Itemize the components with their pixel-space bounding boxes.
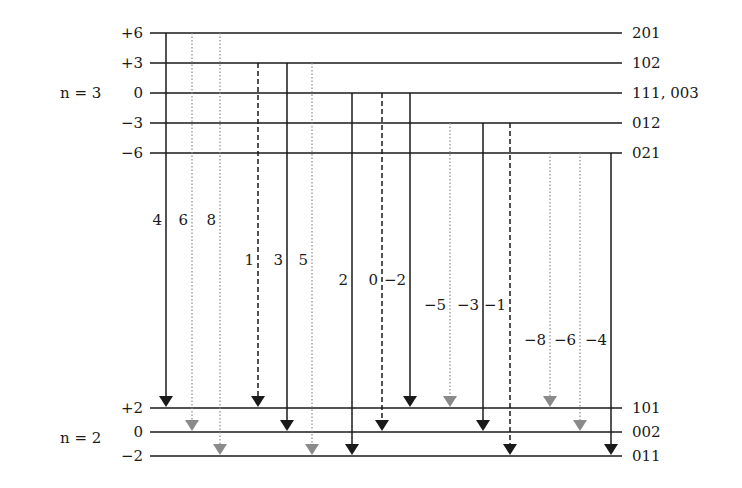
upper-level-states: 111, 003 [632,84,699,102]
transition-arrows [159,33,618,455]
transition-label: 0 [368,271,378,289]
arrowhead-icon [573,420,587,431]
transition-label: 5 [298,251,308,269]
transition-label: −6 [554,331,576,349]
lower-level-value: 0 [133,423,143,441]
transition-label: 4 [152,211,162,229]
transition-label: 1 [244,251,254,269]
upper-level-value: 0 [133,84,143,102]
transition-label: −5 [424,296,446,314]
n3-label: n = 3 [60,84,101,102]
arrowhead-icon [213,444,227,455]
arrowhead-icon [159,396,173,407]
upper-level-value: +6 [121,24,143,42]
arrowhead-icon [443,396,457,407]
arrowhead-icon [375,420,389,431]
transition-label: 8 [206,211,216,229]
lower-level-value: −2 [121,447,143,465]
lower-level-value: +2 [121,399,143,417]
arrowhead-icon [476,420,490,431]
n2-label: n = 2 [60,429,101,447]
upper-level-states: 201 [632,24,661,42]
transition-label: −3 [457,296,479,314]
arrowhead-icon [185,420,199,431]
arrowhead-icon [403,396,417,407]
lower-level-states: 101 [632,399,661,417]
arrowhead-icon [345,444,359,455]
upper-level-states: 021 [632,144,661,162]
lower-level-states: 002 [632,423,661,441]
transition-label: 2 [338,271,348,289]
transition-diagram: +6201+31020111, 003−3012−6021 +21010002−… [0,0,742,488]
upper-level-value: −3 [121,114,143,132]
upper-level-value: −6 [121,144,143,162]
arrowhead-icon [503,444,517,455]
upper-level-states: 102 [632,54,661,72]
arrowhead-icon [280,420,294,431]
transition-label: −1 [484,296,506,314]
arrowhead-icon [604,444,618,455]
lower-level-states: 011 [632,447,661,465]
arrowhead-icon [305,444,319,455]
arrowhead-icon [543,396,557,407]
transition-label: −2 [384,271,406,289]
transition-label: 3 [273,251,283,269]
arrowhead-icon [251,396,265,407]
upper-level-states: 012 [632,114,661,132]
transition-label: −4 [585,331,607,349]
transition-labels: 46813520−2−5−3−1−8−6−4 [152,211,607,349]
transition-label: 6 [178,211,188,229]
transition-label: −8 [524,331,546,349]
upper-level-value: +3 [121,54,143,72]
